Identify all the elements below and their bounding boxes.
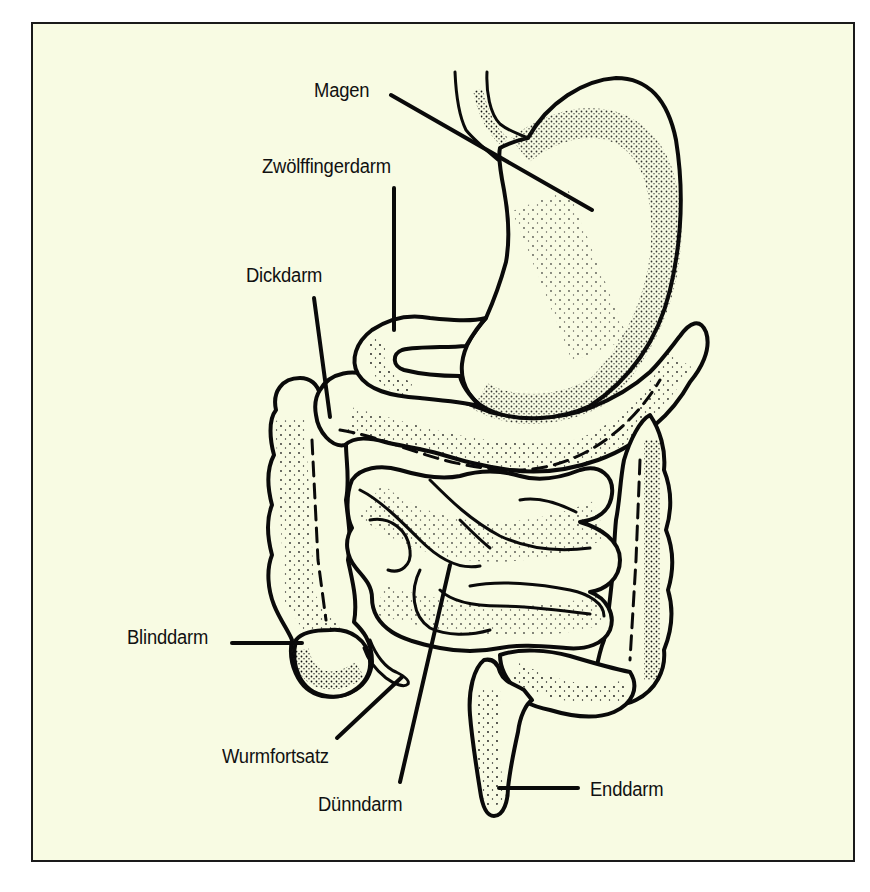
label-blinddarm: Blinddarm: [127, 625, 208, 649]
label-dickdarm: Dickdarm: [246, 263, 322, 287]
label-zwoelffingerdarm: Zwölffingerdarm: [262, 154, 391, 178]
label-magen: Magen: [314, 78, 369, 102]
small-intestine: [347, 467, 620, 651]
digestive-tract-illustration: [0, 0, 870, 892]
label-duenndarm: Dünndarm: [318, 792, 402, 816]
label-enddarm: Enddarm: [590, 777, 663, 801]
label-wurmfortsatz: Wurmfortsatz: [222, 744, 329, 768]
